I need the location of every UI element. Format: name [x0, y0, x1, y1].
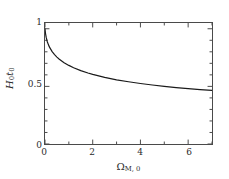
figure-canvas: 1 0.5 0 0 2 4 6 H0t0 ΩM, 0 [0, 0, 229, 179]
plot-frame [44, 22, 213, 145]
y-axis-label-t-sub: 0 [8, 68, 16, 72]
x-axis-label-sub: M, 0 [125, 165, 141, 173]
y-tick-label-0point5: 0.5 [28, 80, 42, 89]
x-axis-label-omega: Ω [117, 161, 125, 172]
y-tick-label-1: 1 [36, 18, 42, 27]
x-tick-label-0: 0 [41, 148, 47, 157]
x-tick-label-2: 2 [89, 148, 95, 157]
x-tick-label-4: 4 [137, 148, 143, 157]
plot-area [45, 23, 212, 144]
x-tick-label-6: 6 [186, 148, 192, 157]
data-curve-H0t0 [45, 29, 212, 91]
y-axis-label-t: t [4, 72, 15, 76]
y-axis-label-H-sub: 0 [8, 76, 16, 80]
tick-marks-group [45, 23, 212, 144]
x-axis-label: ΩM, 0 [44, 161, 213, 173]
y-axis-label: H0t0 [4, 55, 16, 101]
y-axis-label-H: H [4, 80, 15, 89]
